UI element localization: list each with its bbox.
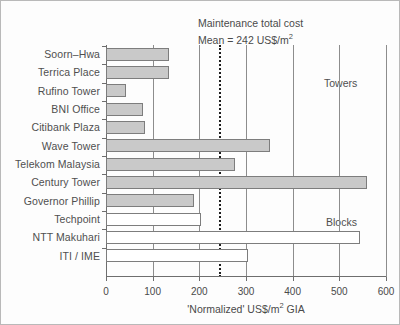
x-tick-200 (199, 277, 200, 281)
bar (106, 139, 270, 152)
bar (106, 176, 367, 189)
y-axis-label: BNI Office (51, 103, 100, 115)
bar (106, 249, 248, 262)
chart-row: ITI / IME (106, 247, 386, 265)
y-axis-label: Rufino Tower (38, 85, 100, 97)
mean-annotation: Maintenance total cost Mean = 242 US$/m2 (198, 17, 303, 47)
x-tick-100 (153, 277, 154, 281)
x-axis-title-tail: GIA (284, 303, 305, 315)
bar (106, 103, 143, 116)
y-axis-label: Wave Tower (42, 140, 100, 152)
bar (106, 48, 169, 61)
y-axis-label: Techpoint (54, 213, 100, 225)
chart-row: Telekom Malaysia (106, 155, 386, 173)
chart-row: Wave Tower (106, 137, 386, 155)
x-tick-0 (106, 277, 107, 281)
chart-row: NTT Makuhari (106, 228, 386, 246)
x-tick-label-200: 200 (191, 286, 208, 297)
bar (106, 213, 201, 226)
mean-annotation-superscript: 2 (289, 32, 293, 41)
chart-row: Governor Phillip (106, 192, 386, 210)
bar (106, 158, 235, 171)
y-axis-label: ITI / IME (59, 250, 100, 262)
gridline-600 (386, 45, 387, 277)
y-axis-label: Governor Phillip (24, 195, 100, 207)
bar (106, 231, 360, 244)
x-tick-label-400: 400 (284, 286, 301, 297)
x-axis-title-main: 'Normalized' US$/m (187, 303, 279, 315)
y-axis-label: Century Tower (31, 176, 100, 188)
x-tick-label-600: 600 (378, 286, 395, 297)
bar (106, 66, 169, 79)
y-axis-label: NTT Makuhari (32, 231, 100, 243)
bar (106, 121, 145, 134)
plot-area: Soorn–HwaTerrica PlaceRufino TowerBNI Of… (106, 45, 386, 277)
x-tick-label-500: 500 (331, 286, 348, 297)
x-tick-label-0: 0 (103, 286, 109, 297)
x-axis-title: 'Normalized' US$/m2 GIA (106, 301, 386, 315)
chart-row: Rufino Tower (106, 82, 386, 100)
x-tick-300 (246, 277, 247, 281)
y-axis-label: Terrica Place (38, 66, 100, 78)
y-axis-label: Soorn–Hwa (44, 48, 100, 60)
chart-row: Terrica Place (106, 63, 386, 81)
mean-annotation-line2-text: Mean = 242 US$/m (198, 34, 289, 46)
chart-row: Soorn–Hwa (106, 45, 386, 63)
y-axis-label: Citibank Plaza (31, 121, 100, 133)
chart-row: Century Tower (106, 173, 386, 191)
x-tick-label-100: 100 (144, 286, 161, 297)
chart-row: Citibank Plaza (106, 118, 386, 136)
mean-annotation-line1: Maintenance total cost (198, 17, 303, 30)
bar (106, 84, 126, 97)
x-tick-label-300: 300 (238, 286, 255, 297)
chart-row: BNI Office (106, 100, 386, 118)
x-tick-500 (339, 277, 340, 281)
x-tick-600 (386, 277, 387, 281)
bar (106, 194, 194, 207)
chart-row: Techpoint (106, 210, 386, 228)
x-tick-400 (293, 277, 294, 281)
y-axis-label: Telekom Malaysia (15, 158, 100, 170)
chart-figure: Maintenance total cost Mean = 242 US$/m2… (0, 0, 400, 325)
